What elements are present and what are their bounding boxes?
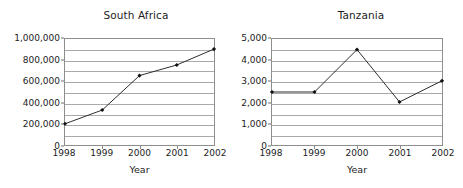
x-axis-tick-label: 2001: [166, 149, 189, 158]
y-axis-tick-mark: [61, 146, 64, 147]
x-axis-tick-mark: [177, 146, 178, 149]
x-axis-tick-label: 2001: [389, 149, 412, 158]
x-axis-tick-label: 2002: [432, 149, 455, 158]
chart-title-south-africa: South Africa: [57, 9, 215, 21]
x-axis-tick-mark: [400, 146, 401, 149]
x-axis-tick-label: 1999: [90, 149, 113, 158]
y-axis-tick-label: 1,000: [241, 120, 267, 129]
y-axis-tick-mark: [61, 102, 64, 103]
x-axis-tick-label: 2000: [128, 149, 151, 158]
data-point-marker: [270, 90, 274, 94]
y-axis-tick-mark: [268, 102, 271, 103]
y-axis-tick-mark: [268, 146, 271, 147]
x-axis-tick-mark: [102, 146, 103, 149]
y-axis-tick-mark: [268, 124, 271, 125]
y-axis-labels-tanzania: 01,0002,0003,0004,0005,000: [231, 38, 267, 146]
chart-panel-south-africa: South Africa 0200,000400,000600,000800,0…: [0, 0, 231, 188]
y-axis-tick-label: 1,000,000: [14, 34, 60, 43]
y-axis-tick-mark: [61, 59, 64, 60]
x-axis-tick-label: 2000: [346, 149, 369, 158]
y-axis-tick-label: 4,000: [241, 55, 267, 64]
x-axis-labels-tanzania: 19981999200020012002: [271, 149, 443, 163]
y-axis-tick-label: 200,000: [23, 120, 60, 129]
plot-area-tanzania: [271, 38, 443, 146]
x-axis-labels-south-africa: 19981999200020012002: [64, 149, 215, 163]
chart-panel-tanzania: Tanzania 01,0002,0003,0004,0005,000 1998…: [231, 0, 463, 188]
series-tanzania: [272, 39, 442, 145]
x-axis-title-south-africa: Year: [64, 164, 215, 175]
y-axis-tick-label: 3,000: [241, 77, 267, 86]
y-axis-tick-mark: [268, 81, 271, 82]
x-axis-tick-mark: [357, 146, 358, 149]
x-axis-tick-mark: [314, 146, 315, 149]
series-line: [272, 50, 442, 102]
data-point-marker: [440, 79, 444, 83]
y-axis-tick-label: 400,000: [23, 98, 60, 107]
y-axis-tick-mark: [268, 59, 271, 60]
plot-area-south-africa: [64, 38, 215, 146]
y-axis-tick-mark: [268, 38, 271, 39]
x-axis-tick-label: 1998: [53, 149, 76, 158]
series-line: [65, 49, 214, 124]
x-axis-tick-mark: [140, 146, 141, 149]
data-point-marker: [175, 63, 179, 67]
x-axis-title-tanzania: Year: [271, 164, 443, 175]
y-axis-tick-label: 600,000: [23, 77, 60, 86]
y-axis-labels-south-africa: 0200,000400,000600,000800,0001,000,000: [2, 38, 60, 146]
series-south-africa: [65, 39, 214, 145]
data-point-marker: [212, 47, 216, 51]
two-panel-line-chart-figure: South Africa 0200,000400,000600,000800,0…: [0, 0, 463, 188]
y-axis-tick-label: 800,000: [23, 55, 60, 64]
y-axis-tick-label: 5,000: [241, 34, 267, 43]
y-axis-tick-mark: [61, 81, 64, 82]
x-axis-tick-label: 1999: [303, 149, 326, 158]
x-axis-tick-label: 1998: [260, 149, 283, 158]
y-axis-tick-mark: [61, 124, 64, 125]
y-axis-tick-label: 2,000: [241, 98, 267, 107]
chart-title-tanzania: Tanzania: [281, 9, 441, 21]
y-axis-tick-mark: [61, 38, 64, 39]
x-axis-tick-label: 2002: [204, 149, 227, 158]
